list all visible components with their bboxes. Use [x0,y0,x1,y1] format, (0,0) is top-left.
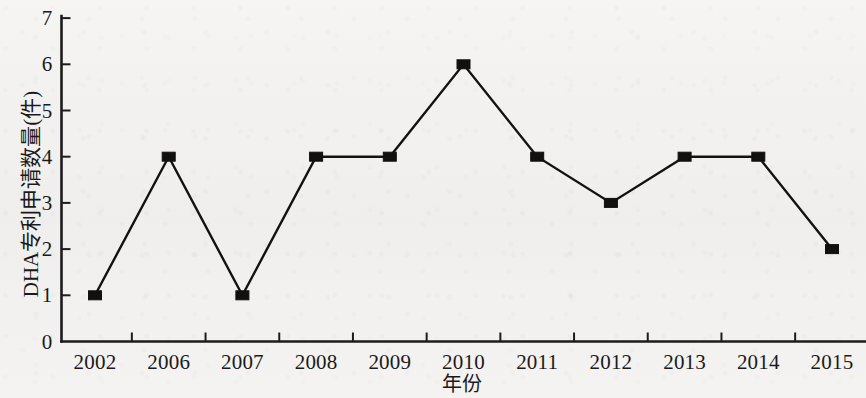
data-point-marker [310,152,323,161]
x-tick-label: 2014 [737,352,780,373]
y-tick-label: 0 [0,331,53,352]
y-axis-title: DHA专利申请数量(件) [14,64,44,324]
line-chart-plot [0,0,866,398]
x-tick-label: 2011 [516,352,558,373]
x-tick-label: 2009 [368,352,411,373]
x-tick-label: 2012 [589,352,632,373]
data-point-marker [531,152,544,161]
chart-figure: 01234567 2002200620072008200920102011201… [0,0,866,398]
x-tick-label: 2008 [295,352,338,373]
x-axis-title: 年份 [442,368,482,397]
x-axis-ticks [132,333,795,342]
x-tick-label: 2015 [811,352,854,373]
x-tick-label: 2013 [663,352,706,373]
data-point-marker [604,198,617,207]
data-point-marker [383,152,396,161]
x-tick-label: 2006 [147,352,190,373]
data-markers [89,60,839,300]
data-line [95,64,832,295]
y-axis-ticks [62,18,71,295]
y-tick-label: 7 [0,8,53,29]
data-point-marker [678,152,691,161]
x-tick-label: 2007 [221,352,264,373]
data-point-marker [89,291,102,300]
data-point-marker [457,60,470,69]
data-point-marker [162,152,175,161]
data-point-marker [826,245,839,254]
x-tick-label: 2002 [74,352,117,373]
data-point-marker [752,152,765,161]
data-point-marker [236,291,249,300]
